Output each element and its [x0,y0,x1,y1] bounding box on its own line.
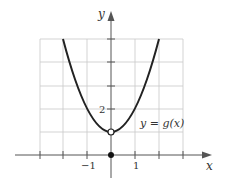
open-circle-marker [108,129,114,135]
tick-label-1: 1 [133,160,139,171]
x-axis-label: x [206,159,213,173]
y-axis-arrow-icon [108,11,115,21]
chart: y x −1 1 2 y = g(x) [0,0,226,187]
tick-label-2: 2 [99,104,105,115]
x-axis-arrow-icon [202,152,212,159]
y-axis-label: y [97,7,105,21]
filled-dot-marker [108,152,114,158]
curve-label: y = g(x) [139,117,184,130]
tick-label-neg1: −1 [81,160,96,171]
